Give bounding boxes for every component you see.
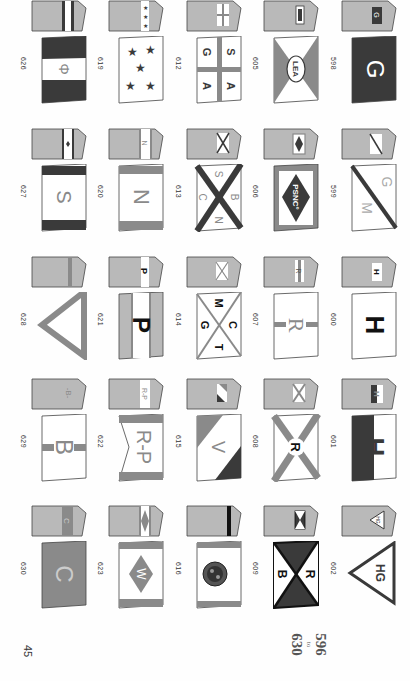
flag-entry-629: -B- B 629	[30, 378, 100, 498]
flag-icon-607: R	[262, 292, 324, 360]
flag-number: 598	[330, 49, 337, 79]
flag-number: 606	[252, 177, 259, 207]
svg-text:R-P: R-P	[141, 388, 148, 400]
svg-text:B: B	[275, 570, 289, 579]
svg-text:R: R	[288, 442, 303, 452]
flag-number: 628	[20, 305, 27, 335]
svg-text:H: H	[372, 269, 381, 275]
svg-text:-B-: -B-	[64, 388, 73, 399]
svg-text:★: ★	[127, 45, 138, 59]
funnel-icon-620: N	[107, 128, 165, 160]
flag-icon-606: PSNC°	[262, 164, 324, 232]
svg-text:R: R	[295, 268, 302, 273]
flag-number: 626	[20, 49, 27, 79]
flag-icon-609: R B	[262, 541, 324, 609]
flag-entry-615: V 615	[185, 378, 255, 498]
svg-text:P: P	[128, 317, 155, 333]
flag-number: 627	[20, 177, 27, 207]
funnel-icon-630: C	[30, 505, 88, 537]
funnel-icon-616	[185, 505, 243, 537]
svg-text:N: N	[129, 189, 154, 205]
svg-text:C: C	[51, 565, 78, 582]
funnel-icon-629: -B-	[30, 378, 88, 410]
flag-icon-626: Φ	[30, 36, 92, 104]
flag-number: 609	[252, 554, 259, 584]
flag-icon-621: P	[107, 292, 169, 360]
svg-text:C: C	[62, 518, 71, 524]
funnel-icon-609	[262, 505, 320, 537]
flag-number: 600	[330, 305, 337, 335]
flag-icon-615: V	[185, 414, 247, 482]
flag-entry-601: H H 601	[340, 378, 410, 498]
funnel-icon-614	[185, 256, 243, 288]
flag-entry-616: 616	[185, 505, 255, 625]
svg-text:★: ★	[143, 14, 148, 20]
svg-text:HG: HG	[373, 564, 387, 582]
svg-text:C: C	[227, 321, 239, 329]
funnel-icon-601: H	[340, 378, 398, 410]
funnel-icon-628	[30, 256, 88, 288]
svg-text:V: V	[208, 441, 228, 453]
funnel-icon-623	[107, 505, 165, 537]
svg-text:★: ★	[125, 79, 136, 93]
svg-text:R-P: R-P	[133, 430, 155, 464]
flag-icon-608: R	[262, 414, 324, 482]
svg-text:G: G	[199, 321, 211, 330]
flag-entry-602: HG HG 602	[340, 505, 410, 625]
flag-entry-619: ★ ★ ★ ★ ★ ★ ★ ★ 619	[107, 0, 177, 120]
flag-entry-606: PSNC° 606	[262, 128, 332, 248]
flag-number: 622	[97, 427, 104, 457]
flag-icon-612: S A G A	[185, 36, 247, 104]
flag-number: 613	[175, 177, 182, 207]
svg-text:★: ★	[143, 23, 148, 29]
flag-entry-607: R R 607	[262, 256, 332, 376]
flag-entry-622: R-P R-P 622	[107, 378, 177, 498]
flag-number: 607	[252, 305, 259, 335]
flag-entry-621: P P 621	[107, 256, 177, 376]
svg-text:C: C	[197, 193, 208, 200]
svg-text:M: M	[213, 298, 225, 307]
flag-icon-627: S	[30, 164, 92, 232]
funnel-icon-599	[340, 128, 398, 160]
flag-range-label: 596 to 630	[289, 615, 328, 675]
flag-number: 602	[330, 554, 337, 584]
flag-icon-605: LEA	[262, 36, 324, 104]
svg-text:R: R	[303, 570, 317, 579]
svg-text:PSNC°: PSNC°	[291, 184, 300, 209]
svg-text:H: H	[360, 316, 390, 335]
funnel-icon-608	[262, 378, 320, 410]
flag-icon-600: H	[340, 292, 402, 360]
funnel-icon-621: P	[107, 256, 165, 288]
flag-icon-602: HG	[340, 541, 402, 609]
svg-text:LEA: LEA	[291, 61, 300, 77]
svg-text:★: ★	[135, 61, 146, 75]
range-to: 630	[289, 615, 304, 675]
flag-icon-601: H	[340, 414, 402, 482]
funnel-icon-602: HG	[340, 505, 398, 537]
flag-number: 621	[97, 305, 104, 335]
flag-entry-620: N N 620	[107, 128, 177, 248]
svg-text:★: ★	[143, 5, 148, 11]
funnel-icon-598: G	[340, 0, 398, 32]
flag-number: 601	[330, 427, 337, 457]
funnel-icon-627	[30, 128, 88, 160]
flag-icon-628	[30, 292, 92, 360]
funnel-icon-605	[262, 0, 320, 32]
flag-entry-598: G G 598	[340, 0, 410, 120]
flag-icon-616	[185, 541, 247, 609]
flag-icon-630: C	[30, 541, 92, 609]
funnel-icon-626	[30, 0, 88, 32]
flag-entry-630: C C 630	[30, 505, 100, 625]
svg-text:P: P	[139, 268, 149, 274]
flag-icon-619: ★ ★ ★ ★ ★	[107, 36, 169, 104]
svg-text:N: N	[141, 140, 148, 145]
svg-text:HG: HG	[375, 516, 381, 524]
svg-text:S: S	[213, 171, 224, 178]
funnel-icon-619: ★ ★ ★	[107, 0, 165, 32]
svg-text:M: M	[359, 202, 375, 214]
flag-icon-622: R-P	[107, 414, 169, 482]
flag-icon-613: S B C N	[185, 164, 247, 232]
flag-entry-627: S 627	[30, 128, 100, 248]
flag-number: 616	[175, 554, 182, 584]
flag-number: 605	[252, 49, 259, 79]
